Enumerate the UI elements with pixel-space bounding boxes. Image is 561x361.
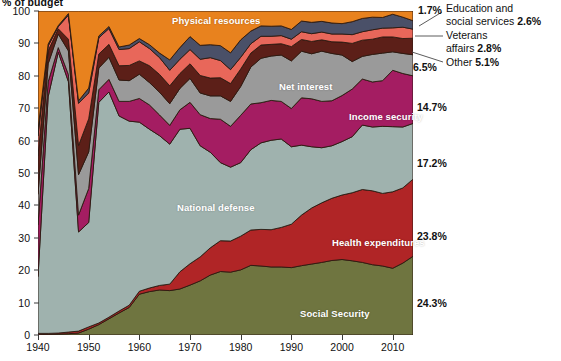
callout-pct-6-5: 6.5%	[413, 61, 437, 73]
stacked-area-paths	[38, 11, 413, 335]
callout-other: Other 5.1%	[446, 56, 499, 69]
y-tick-0: 0	[0, 329, 30, 341]
y-tickmark-30	[34, 237, 39, 238]
callout-education-social-services: Education and social services 2.6%	[446, 2, 541, 28]
x-tickmark-1990	[291, 335, 292, 340]
chart-root: % of budget 0102030405060708090100 19401…	[0, 0, 561, 361]
x-tick-1960: 1960	[128, 341, 151, 353]
x-tick-2000: 2000	[330, 341, 353, 353]
x-tick-1940: 1940	[26, 341, 49, 353]
x-tickmark-1940	[38, 335, 39, 340]
y-tickmark-60	[34, 140, 39, 141]
x-tick-1950: 1950	[77, 341, 100, 353]
y-tick-40: 40	[0, 199, 30, 211]
callout-pct-1-7: 1.7%	[418, 4, 442, 16]
x-tickmark-1980	[241, 335, 242, 340]
callout-education-line2: social services	[446, 15, 514, 27]
callout-pct-23-8: 23.8%	[417, 230, 447, 242]
y-tick-20: 20	[0, 264, 30, 276]
x-tick-1980: 1980	[229, 341, 252, 353]
x-tick-2010: 2010	[381, 341, 404, 353]
callout-pct-24-3: 24.3%	[417, 297, 447, 309]
y-tickmark-100	[34, 11, 39, 12]
y-tick-50: 50	[0, 167, 30, 179]
y-tick-60: 60	[0, 135, 30, 147]
x-tick-1970: 1970	[178, 341, 201, 353]
y-tickmark-10	[34, 302, 39, 303]
y-tick-30: 30	[0, 232, 30, 244]
callout-education-line1: Education and	[446, 2, 513, 14]
y-tickmark-40	[34, 205, 39, 206]
x-tickmark-2000	[342, 335, 343, 340]
y-tickmark-80	[34, 75, 39, 76]
callout-veterans-affairs: Veterans affairs 2.8%	[446, 29, 501, 55]
plot-area	[38, 11, 413, 335]
y-tick-90: 90	[0, 37, 30, 49]
series-label-health-expenditures: Health expenditures	[332, 237, 425, 248]
callout-veterans-line2: affairs	[446, 42, 474, 54]
callout-education-value: 2.6%	[517, 15, 541, 27]
callout-pct-14-7: 14.7%	[417, 101, 447, 113]
callout-other-value: 5.1%	[475, 56, 499, 68]
y-tick-10: 10	[0, 297, 30, 309]
series-label-net-interest: Net interest	[279, 81, 332, 92]
series-label-social-security: Social Security	[300, 308, 370, 319]
series-label-income-security: Income security	[349, 111, 423, 122]
series-label-national-defense: National defense	[177, 202, 255, 213]
y-tickmark-70	[34, 108, 39, 109]
y-tick-70: 70	[0, 102, 30, 114]
x-tickmark-1970	[190, 335, 191, 340]
y-tickmark-50	[34, 173, 39, 174]
callout-veterans-value: 2.8%	[477, 42, 501, 54]
callout-pct-17-2: 17.2%	[417, 157, 447, 169]
x-tick-1990: 1990	[280, 341, 303, 353]
callout-other-label: Other	[446, 56, 472, 68]
x-tickmark-1960	[139, 335, 140, 340]
y-tickmark-90	[34, 43, 39, 44]
x-tickmark-1950	[89, 335, 90, 340]
series-label-physical-resources: Physical resources	[172, 15, 260, 26]
y-tickmark-20	[34, 270, 39, 271]
y-tick-80: 80	[0, 70, 30, 82]
y-tick-100: 100	[0, 5, 30, 17]
callout-veterans-line1: Veterans	[446, 29, 487, 41]
x-tickmark-2010	[393, 335, 394, 340]
